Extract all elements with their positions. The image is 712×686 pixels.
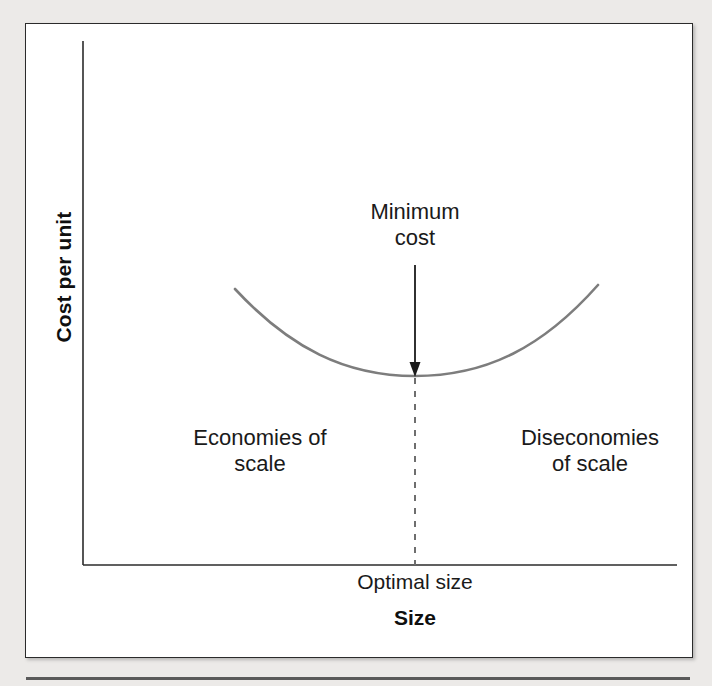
figure-frame: [25, 23, 693, 658]
optimal-size-label: Optimal size: [315, 570, 515, 595]
bottom-divider-rule: [26, 677, 690, 680]
y-axis-title: Cost per unit: [51, 177, 77, 377]
economies-of-scale-label: Economies of scale: [155, 425, 365, 476]
x-axis-title: Size: [315, 606, 515, 631]
minimum-cost-annotation: Minimum cost: [315, 199, 515, 250]
diseconomies-of-scale-label: Diseconomies of scale: [485, 425, 695, 476]
